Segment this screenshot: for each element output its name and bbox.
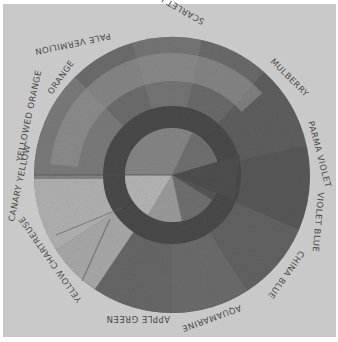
color-wheel: PALE VERMILION SCARLET LAKE MULBERRY PAR… bbox=[0, 0, 338, 342]
label-pale-vermilion: PALE VERMILION bbox=[34, 31, 112, 57]
label-parma-violet: PARMA VIOLET bbox=[306, 120, 333, 189]
label-apple-green: APPLE GREEN bbox=[106, 314, 170, 324]
label-scarlet-lake: SCARLET LAKE bbox=[141, 0, 206, 27]
label-violet-blue: VIOLET BLUE bbox=[311, 192, 326, 253]
